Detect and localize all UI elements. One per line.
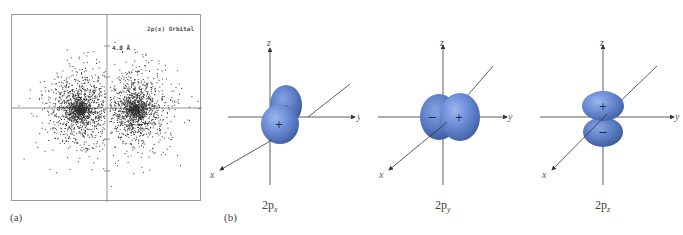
- dot-plot-panel: 2p(x) Orbital 4.0 Å: [11, 14, 201, 201]
- x-axis: [389, 122, 447, 170]
- z-axis-label: z: [266, 37, 271, 48]
- orbital-2py: − + x y z 2py: [365, 0, 525, 235]
- x-axis: [220, 140, 272, 170]
- x-axis-label: x: [541, 169, 547, 180]
- x-axis-label: x: [209, 169, 215, 180]
- z-axis-label: z: [599, 37, 604, 48]
- sign-positive: +: [455, 112, 463, 123]
- scatter-plot: [12, 15, 202, 202]
- z-axis-label: z: [439, 37, 444, 48]
- panel-a-label: (a): [10, 211, 22, 223]
- x-axis-back: [308, 84, 350, 117]
- orbital-label-2py: 2py: [435, 198, 451, 214]
- orbital-label-2px: 2px: [262, 198, 278, 214]
- sign-positive: +: [275, 119, 283, 130]
- sign-positive: +: [599, 101, 607, 112]
- y-axis-label: y: [356, 111, 360, 122]
- orbital-2px-diagram: − + x y z: [200, 0, 360, 235]
- y-axis-label: y: [674, 111, 680, 122]
- sign-negative: −: [598, 126, 607, 139]
- orbital-2px: − + x y z 2px: [200, 0, 360, 235]
- electron-dots: [18, 42, 199, 187]
- sign-negative: −: [427, 111, 436, 124]
- orbital-2pz: − + x y z 2pz: [522, 0, 682, 235]
- plot-title: 2p(x) Orbital: [147, 25, 194, 32]
- scale-label: 4.0 Å: [112, 44, 130, 51]
- x-axis-label: x: [378, 169, 384, 180]
- orbital-label-2pz: 2pz: [595, 198, 610, 214]
- y-axis-label: y: [507, 111, 513, 122]
